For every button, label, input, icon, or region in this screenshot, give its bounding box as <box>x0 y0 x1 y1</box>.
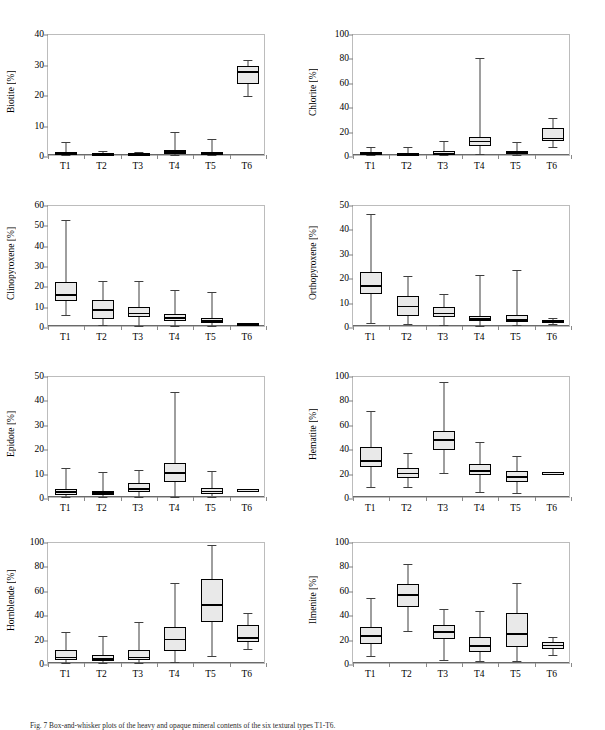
whisker-upper <box>66 468 67 489</box>
whisker-cap-lower <box>476 326 485 327</box>
box-plot-t4 <box>469 375 491 497</box>
whisker-cap-lower <box>439 660 448 661</box>
whisker-cap-upper <box>98 472 107 473</box>
x-tick-label-t1: T1 <box>365 333 376 343</box>
y-tick-mark <box>44 226 48 227</box>
panel-grid: Biotite [%]010203040T1T2T3T4T5T6Chlorite… <box>0 28 605 712</box>
whisker-cap-upper <box>207 139 216 140</box>
median-line <box>201 491 223 493</box>
box-plot-t3 <box>433 204 455 326</box>
x-tick-mark <box>426 497 427 501</box>
x-tick-mark <box>353 663 354 667</box>
x-tick-mark <box>193 326 194 330</box>
y-tick-mark <box>44 543 48 544</box>
x-tick-mark <box>193 155 194 159</box>
x-axis-line <box>48 496 264 497</box>
median-line <box>360 285 382 287</box>
whisker-lower <box>443 639 444 660</box>
median-line <box>506 152 528 154</box>
x-tick-mark <box>535 497 536 501</box>
whisker-cap-lower <box>476 661 485 662</box>
whisker-upper <box>211 139 212 152</box>
x-tick-mark <box>230 663 231 667</box>
x-tick-label-t4: T4 <box>169 504 180 514</box>
box-plot-t3 <box>128 33 150 155</box>
x-tick-mark <box>389 326 390 330</box>
x-tick-mark <box>230 497 231 501</box>
x-axis-labels: T1T2T3T4T5T6 <box>352 670 570 684</box>
x-tick-mark <box>571 663 572 667</box>
y-tick-mark <box>44 287 48 288</box>
x-tick-mark <box>426 326 427 330</box>
y-tick-mark <box>44 616 48 617</box>
iqr-box <box>237 66 259 84</box>
box-plot-t1 <box>360 33 382 155</box>
whisker-cap-upper <box>98 636 107 637</box>
whisker-cap-upper <box>98 151 107 152</box>
median-line <box>360 460 382 462</box>
y-tick-mark <box>349 450 353 451</box>
x-tick-label-t3: T3 <box>133 162 144 172</box>
whisker-cap-upper <box>134 622 143 623</box>
x-tick-mark <box>389 155 390 159</box>
whisker-cap-lower <box>98 325 107 326</box>
whisker-upper <box>516 142 517 151</box>
whisker-cap-lower <box>171 662 180 663</box>
box-plot-t6 <box>542 33 564 155</box>
box-plot-t6 <box>237 375 259 497</box>
whisker-cap-upper <box>403 453 412 454</box>
median-line <box>469 470 491 472</box>
box-plot-t3 <box>128 204 150 326</box>
x-tick-mark <box>353 497 354 501</box>
y-tick-mark <box>349 425 353 426</box>
y-tick-mark <box>349 640 353 641</box>
median-line <box>469 141 491 143</box>
whisker-lower <box>443 450 444 474</box>
whisker-cap-lower <box>367 487 376 488</box>
x-tick-label-t1: T1 <box>365 504 376 514</box>
whisker-upper <box>102 472 103 491</box>
x-tick-label-t1: T1 <box>365 162 376 172</box>
box-plot-t5 <box>201 204 223 326</box>
x-tick-mark <box>121 497 122 501</box>
box-plot-t2 <box>397 204 419 326</box>
y-tick-mark <box>349 230 353 231</box>
x-tick-mark <box>48 663 49 667</box>
x-tick-label-t6: T6 <box>547 670 558 680</box>
whisker-lower <box>443 317 444 325</box>
whisker-cap-lower <box>403 324 412 325</box>
median-line <box>164 151 186 153</box>
whisker-cap-upper <box>171 392 180 393</box>
whisker-cap-upper <box>476 611 485 612</box>
whisker-upper <box>247 613 248 625</box>
x-axis-line <box>353 325 569 326</box>
x-axis-line <box>353 154 569 155</box>
plot-area: 01020304050 <box>352 205 570 327</box>
median-line <box>469 318 491 320</box>
y-axis-label: Ilmenite [%] <box>304 536 322 664</box>
median-line <box>506 319 528 321</box>
x-tick-mark <box>84 497 85 501</box>
whisker-upper <box>175 583 176 627</box>
x-axis-labels: T1T2T3T4T5T6 <box>352 333 570 347</box>
x-tick-label-t6: T6 <box>547 333 558 343</box>
median-line <box>92 658 114 660</box>
box-plot-t5 <box>506 33 528 155</box>
median-line <box>164 472 186 474</box>
whisker-cap-upper <box>62 468 71 469</box>
whisker-cap-lower <box>62 497 71 498</box>
y-tick-mark <box>44 640 48 641</box>
x-tick-label-t2: T2 <box>96 162 107 172</box>
x-tick-label-t6: T6 <box>242 162 253 172</box>
whisker-cap-upper <box>367 411 376 412</box>
x-axis-labels: T1T2T3T4T5T6 <box>47 333 265 347</box>
box-plot-t4 <box>164 33 186 155</box>
whisker-cap-lower <box>512 325 521 326</box>
x-tick-mark <box>462 155 463 159</box>
median-line <box>237 489 259 491</box>
box-plot-t4 <box>469 541 491 663</box>
x-axis-labels: T1T2T3T4T5T6 <box>47 670 265 684</box>
median-line <box>506 476 528 478</box>
x-tick-label-t1: T1 <box>60 333 71 343</box>
whisker-lower <box>480 475 481 492</box>
